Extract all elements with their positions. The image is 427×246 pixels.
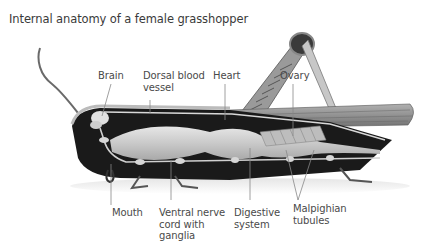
label-ovary: Ovary: [280, 70, 309, 82]
label-ventral-nerve-cord: Ventral nerve cord with ganglia: [159, 207, 225, 242]
label-mouth: Mouth: [112, 207, 143, 219]
label-brain: Brain: [98, 70, 124, 82]
antenna: [39, 48, 83, 118]
label-digestive-system: Digestive system: [234, 207, 280, 230]
label-dorsal-blood-vessel: Dorsal blood vessel: [143, 70, 205, 93]
label-malpighian-tubules: Malpighian tubules: [293, 203, 347, 226]
label-heart: Heart: [213, 70, 240, 82]
